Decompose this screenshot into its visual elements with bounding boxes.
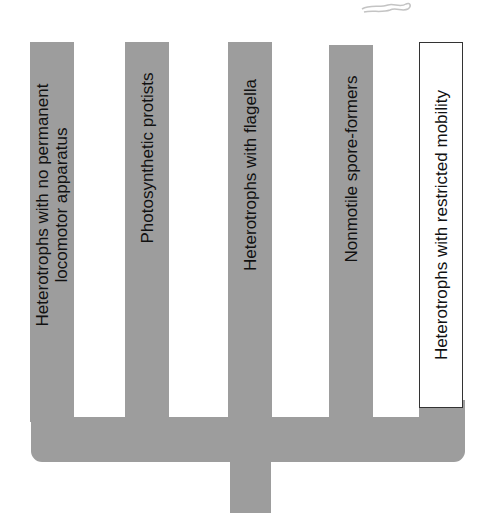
branch-label: Heterotrophs with no permanent locomotor… xyxy=(33,84,71,327)
branch-label: Heterotrophs with flagella xyxy=(241,79,260,271)
organism-sketch-icon xyxy=(360,0,420,14)
branch-spore-formers: Nonmotile spore-formers xyxy=(329,45,373,422)
label-line-1: Heterotrophs with no permanent xyxy=(33,84,52,327)
branch-photosynthetic: Photosynthetic protists xyxy=(125,42,169,422)
branch-no-locomotor: Heterotrophs with no permanent locomotor… xyxy=(30,42,74,422)
classification-tree: Heterotrophs with no permanent locomotor… xyxy=(0,0,494,513)
trunk xyxy=(230,455,271,513)
branch-flagella: Heterotrophs with flagella xyxy=(228,42,272,422)
branch-label: Nonmotile spore-formers xyxy=(342,75,361,262)
label-line-2: locomotor apparatus xyxy=(52,84,71,327)
branch-restricted-mobility: Heterotrophs with restricted mobility xyxy=(419,42,463,408)
branch-label: Photosynthetic protists xyxy=(138,72,157,243)
branch-label: Heterotrophs with restricted mobility xyxy=(432,90,451,360)
